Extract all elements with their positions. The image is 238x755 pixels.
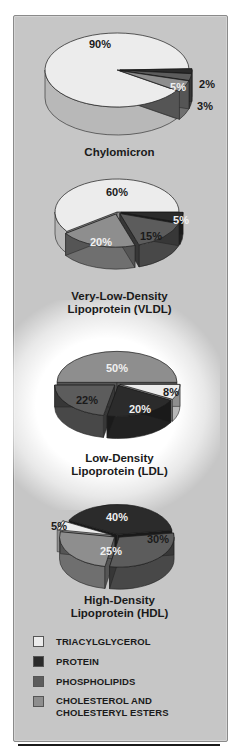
slice-label-protein: 20% bbox=[129, 403, 151, 415]
slice-label-cholesterol: 5% bbox=[170, 81, 186, 93]
slice-label-protein: 40% bbox=[106, 511, 128, 523]
slice-label-cholesterol: 20% bbox=[90, 236, 112, 248]
legend-label-line2: CHOLESTERYL ESTERS bbox=[56, 707, 169, 719]
slice-label-phospholipids: 3% bbox=[197, 100, 213, 112]
pie-0: 90%2%3%5% bbox=[45, 33, 215, 135]
chylomicron-title: Chylomicron bbox=[13, 146, 226, 159]
hdl-title-line1: High-Density bbox=[13, 594, 226, 607]
vldl-title-line1: Very-Low-Density bbox=[13, 290, 226, 303]
vldl-title-line2: Lipoprotein (VLDL) bbox=[13, 303, 226, 316]
legend-label: TRIACYLGLYCEROL bbox=[56, 636, 151, 648]
slice-label-cholesterol: 25% bbox=[100, 545, 122, 557]
slice-label-protein: 2% bbox=[199, 78, 215, 90]
pie-1: 60%5%15%20% bbox=[55, 179, 189, 269]
slice-label-cholesterol: 50% bbox=[106, 362, 128, 374]
ldl-title-line1: Low-Density bbox=[13, 452, 226, 465]
pie-3: 5%40%30%25% bbox=[51, 504, 174, 589]
slice-label-protein: 5% bbox=[173, 214, 189, 226]
legend-label-line1: CHOLESTEROL AND bbox=[56, 695, 152, 707]
pie-2: 8%20%22%50% bbox=[55, 351, 180, 438]
phospholipids-swatch bbox=[33, 676, 44, 687]
slice-label-phospholipids: 30% bbox=[147, 533, 169, 545]
legend-label: PHOSPHOLIPIDS bbox=[56, 676, 135, 688]
protein-swatch bbox=[33, 656, 44, 667]
bottom-rule bbox=[18, 744, 220, 746]
slice-label-triacylglycerol: 90% bbox=[89, 38, 111, 50]
slice-label-phospholipids: 22% bbox=[76, 394, 98, 406]
hdl-title-line2: Lipoprotein (HDL) bbox=[13, 607, 226, 620]
slice-label-triacylglycerol: 5% bbox=[51, 520, 67, 532]
slice-label-triacylglycerol: 8% bbox=[163, 386, 179, 398]
slice-label-phospholipids: 15% bbox=[140, 230, 162, 242]
slice-label-triacylglycerol: 60% bbox=[106, 186, 128, 198]
triacylglycerol-swatch bbox=[33, 636, 44, 647]
ldl-title-line2: Lipoprotein (LDL) bbox=[13, 465, 226, 478]
cholesterol-swatch bbox=[33, 696, 44, 707]
legend-label: PROTEIN bbox=[56, 656, 99, 668]
